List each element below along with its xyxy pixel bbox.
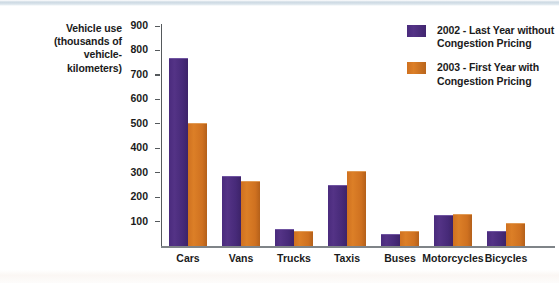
y-tick-label: 700 — [130, 68, 148, 80]
legend-label-2: 2003 - First Year withCongestion Pricing — [437, 61, 559, 87]
legend-label-line-1: 2002 - Last Year without — [437, 24, 559, 37]
bar-taxis-series-2 — [347, 171, 366, 246]
y-tick-mark — [155, 221, 160, 222]
bar-trucks-series-2 — [294, 231, 313, 246]
y-axis-title: Vehicle use (thousands of vehicle- kilom… — [18, 22, 122, 75]
y-tick-label: 800 — [130, 43, 148, 55]
y-tick-mark — [155, 172, 160, 173]
bar-group-taxis — [328, 26, 366, 246]
bar-chart: Vehicle use (thousands of vehicle- kilom… — [0, 0, 559, 283]
legend-swatch-1 — [407, 25, 426, 37]
legend-label-line-2: Congestion Pricing — [437, 75, 559, 88]
bar-motorcycles-series-2 — [453, 214, 472, 247]
y-tick-mark — [155, 148, 160, 149]
bar-vans-series-2 — [241, 181, 260, 246]
y-tick-label: 500 — [130, 117, 148, 129]
bar-cars-series-1 — [169, 58, 188, 246]
bar-bicycles-series-1 — [487, 231, 506, 246]
legend-label-line-2: Congestion Pricing — [437, 37, 559, 50]
bar-fill — [347, 171, 366, 246]
y-tick-mark — [155, 99, 160, 100]
x-axis-line — [161, 246, 555, 248]
bar-fill — [294, 231, 313, 246]
bar-fill — [328, 185, 347, 246]
legend-item-2: 2003 - First Year withCongestion Pricing — [407, 61, 559, 87]
bar-fill — [275, 229, 294, 246]
bar-fill — [453, 214, 472, 247]
legend-label-line-1: 2003 - First Year with — [437, 61, 559, 74]
bar-trucks-series-1 — [275, 229, 294, 246]
y-tick-label: 900 — [130, 19, 148, 31]
bar-fill — [241, 181, 260, 246]
bar-fill — [400, 231, 419, 246]
bar-buses-series-2 — [400, 231, 419, 246]
bar-fill — [434, 215, 453, 246]
y-tick-label: 300 — [130, 166, 148, 178]
bar-vans-series-1 — [222, 176, 241, 246]
legend-label-1: 2002 - Last Year withoutCongestion Prici… — [437, 24, 559, 50]
y-axis-title-line-1: Vehicle use — [18, 22, 122, 35]
bar-fill — [381, 234, 400, 246]
bar-fill — [188, 123, 207, 246]
y-tick-mark — [155, 197, 160, 198]
y-tick-label: 200 — [130, 190, 148, 202]
y-tick-mark — [155, 123, 160, 124]
bar-fill — [222, 176, 241, 246]
bar-fill — [169, 58, 188, 246]
bar-group-vans — [222, 26, 260, 246]
y-axis-title-line-2: (thousands of — [18, 35, 122, 48]
y-tick-label: 400 — [130, 141, 148, 153]
y-tick-label: 100 — [130, 215, 148, 227]
bar-buses-series-1 — [381, 234, 400, 246]
y-axis-title-line-4: kilometers) — [18, 62, 122, 75]
bar-fill — [506, 223, 525, 246]
bar-cars-series-2 — [188, 123, 207, 246]
bar-bicycles-series-2 — [506, 223, 525, 246]
legend-swatch-2 — [407, 62, 426, 74]
bar-motorcycles-series-1 — [434, 215, 453, 246]
y-axis-title-line-3: vehicle- — [18, 48, 122, 61]
y-tick-mark — [155, 26, 160, 27]
legend-item-1: 2002 - Last Year withoutCongestion Prici… — [407, 24, 559, 50]
y-tick-label: 600 — [130, 92, 148, 104]
chart-legend: 2002 - Last Year withoutCongestion Prici… — [407, 24, 559, 99]
bar-taxis-series-1 — [328, 185, 347, 246]
y-tick-mark — [155, 50, 160, 51]
x-axis-label-bicycles: Bicycles — [467, 252, 545, 264]
bar-group-trucks — [275, 26, 313, 246]
y-tick-mark — [155, 74, 160, 75]
bar-group-cars — [169, 26, 207, 246]
bar-fill — [487, 231, 506, 246]
